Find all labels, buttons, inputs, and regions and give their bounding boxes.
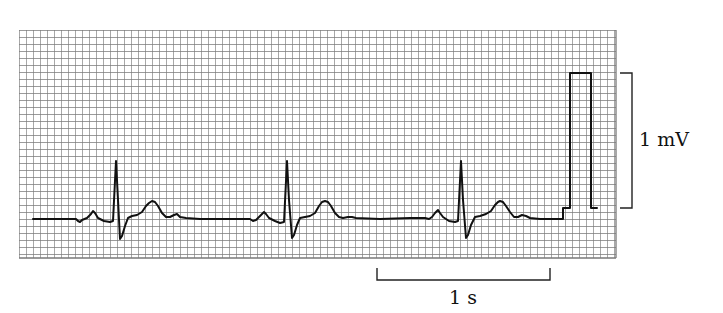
ecg-figure: 1 mV 1 s xyxy=(0,0,723,313)
ecg-chart xyxy=(0,0,723,313)
time-scale-bracket xyxy=(377,268,550,280)
voltage-scale-label: 1 mV xyxy=(639,128,689,150)
voltage-scale-bracket xyxy=(620,73,632,208)
grid-paper xyxy=(19,30,616,258)
time-scale-label: 1 s xyxy=(449,286,477,308)
